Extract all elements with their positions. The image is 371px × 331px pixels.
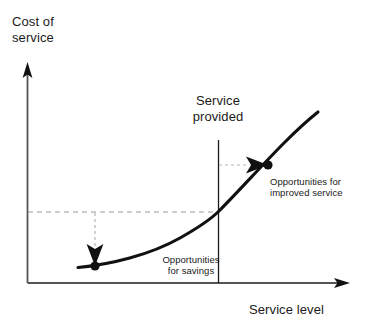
savings-label-line1: Opportunities (162, 254, 219, 265)
x-axis (28, 278, 351, 288)
improved-service-point-marker (263, 160, 272, 169)
savings-point-marker (90, 261, 99, 270)
opportunities-for-savings-label: Opportunitiesfor savings (141, 254, 241, 276)
y-axis (23, 62, 33, 283)
opportunities-for-improved-service-label: Opportunities forimproved service (270, 176, 343, 198)
improved-label-line1: Opportunities for (270, 176, 341, 187)
y-axis-title-line1: Cost of (12, 14, 54, 29)
savings-label-line2: for savings (168, 265, 215, 276)
savings-annotation-arrow (87, 213, 104, 266)
y-axis-title: Cost ofservice (12, 14, 54, 47)
service-provided-line2: provided (193, 109, 244, 124)
improved-label-line2: improved service (270, 187, 343, 198)
diagram-canvas (0, 0, 371, 331)
cost-of-service-diagram: Cost ofservice Serviceprovided Service l… (0, 0, 371, 331)
service-provided-label: Serviceprovided (168, 93, 268, 126)
service-provided-line1: Service (196, 93, 240, 108)
y-axis-title-line2: service (12, 30, 54, 45)
improved-service-annotation-arrow (219, 157, 268, 174)
x-axis-title: Service level (249, 302, 324, 318)
